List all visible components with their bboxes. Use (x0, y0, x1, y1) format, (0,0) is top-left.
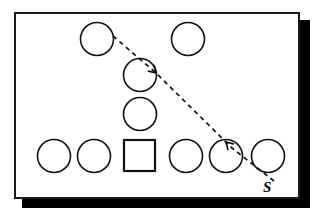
node-label-s: S (263, 180, 271, 195)
diagram-frame (14, 12, 300, 199)
diagram-canvas: S (0, 0, 318, 217)
